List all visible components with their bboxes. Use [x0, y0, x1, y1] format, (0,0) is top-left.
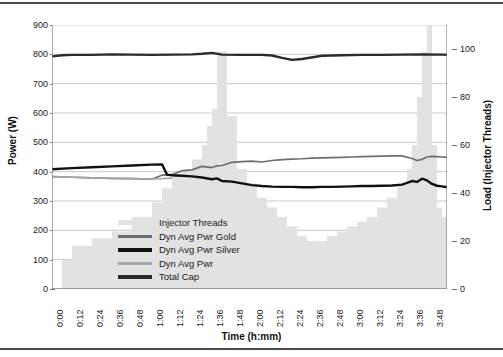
legend-item: Total Cap [118, 270, 240, 284]
x-axis-tick-label: 0:48 [136, 309, 145, 327]
y2-axis-tick-label: 100 [460, 45, 490, 54]
top-divider-rule [0, 2, 503, 4]
x-axis-tick-label: 0:36 [116, 309, 125, 327]
y-axis-tick-label: 100 [14, 256, 48, 265]
legend-item: Dyn Avg Pwr [118, 257, 240, 271]
series-line-total-cap [52, 53, 447, 60]
x-axis-tick-label: 3:36 [416, 309, 425, 327]
chart-svg [52, 25, 447, 289]
legend-swatch [118, 248, 152, 252]
chart-legend: Injector ThreadsDyn Avg Pwr GoldDyn Avg … [118, 216, 240, 284]
legend-swatch [118, 262, 152, 265]
legend-label: Dyn Avg Pwr [159, 257, 213, 271]
y2-axis-tick-mark [452, 241, 457, 242]
y-axis-title: Power (W) [7, 116, 18, 165]
y2-axis-title: Load (Injector Threads) [482, 100, 493, 211]
x-axis-tick-label: 1:36 [216, 309, 225, 327]
x-axis-tick-label: 0:12 [76, 309, 85, 327]
x-axis-tick-label: 3:00 [356, 309, 365, 327]
y-axis-tick-label: 400 [14, 168, 48, 177]
legend-label: Total Cap [159, 270, 199, 284]
legend-swatch [118, 275, 152, 279]
y2-axis-tick-mark [452, 193, 457, 194]
y-axis-tick-label: 700 [14, 80, 48, 89]
y2-axis-tick-mark [452, 289, 457, 290]
legend-label: Dyn Avg Pwr Silver [159, 243, 240, 257]
plot-area [52, 25, 447, 289]
legend-swatch [118, 220, 152, 225]
x-axis-tick-label: 2:24 [296, 309, 305, 327]
x-axis-tick-label: 3:12 [376, 309, 385, 327]
y-axis-tick-mark [50, 289, 55, 290]
figure-container: 9008007006005004003002001000 10080604020… [0, 0, 503, 357]
x-axis-tick-labels: 0:000:120:240:360:481:001:121:241:361:48… [0, 293, 503, 333]
legend-item: Dyn Avg Pwr Gold [118, 230, 240, 244]
y-axis-tick-label: 900 [14, 21, 48, 30]
y-axis-tick-label: 600 [14, 109, 48, 118]
x-axis-tick-label: 1:48 [236, 309, 245, 327]
legend-swatch [118, 235, 152, 238]
y2-axis-tick-mark [452, 97, 457, 98]
legend-label: Dyn Avg Pwr Gold [159, 230, 236, 244]
x-axis-tick-label: 1:24 [196, 309, 205, 327]
y2-axis-tick-mark [452, 49, 457, 50]
y2-axis-tick-mark [452, 145, 457, 146]
x-axis-tick-label: 1:00 [156, 309, 165, 327]
x-axis-tick-label: 2:48 [336, 309, 345, 327]
x-axis-tick-label: 3:48 [436, 309, 445, 327]
y2-axis-tick-label: 20 [460, 237, 490, 246]
y-axis-tick-label: 200 [14, 226, 48, 235]
legend-item: Dyn Avg Pwr Silver [118, 243, 240, 257]
legend-item: Injector Threads [118, 216, 240, 230]
series-line-dyn-avg-pwr-silver [52, 164, 447, 187]
series-area-injector-threads [52, 25, 447, 289]
legend-label: Injector Threads [159, 216, 227, 230]
x-axis-tick-label: 0:00 [56, 309, 65, 327]
y-axis-tick-label: 300 [14, 197, 48, 206]
bottom-divider-rule [0, 348, 503, 350]
y-axis-tick-label: 500 [14, 138, 48, 147]
x-axis-tick-label: 3:24 [396, 309, 405, 327]
x-axis-tick-label: 1:12 [176, 309, 185, 327]
x-axis-tick-label: 2:36 [316, 309, 325, 327]
x-axis-tick-label: 2:12 [276, 309, 285, 327]
y-axis-tick-label: 800 [14, 50, 48, 59]
x-axis-tick-label: 0:24 [96, 309, 105, 327]
x-axis-tick-label: 2:00 [256, 309, 265, 327]
